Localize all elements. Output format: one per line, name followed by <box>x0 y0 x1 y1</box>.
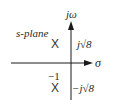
pole-upper-x-icon: X <box>51 38 59 50</box>
upper-pole-label: j√8 <box>77 39 92 50</box>
imaginary-axis-arrowhead-icon <box>68 21 74 30</box>
imaginary-axis-label: jω <box>66 9 77 20</box>
plane-label-text: s-plane <box>16 27 48 39</box>
lower-pole-label: −j√8 <box>72 83 94 94</box>
real-axis-arrowhead-icon <box>84 60 93 66</box>
s-plane-diagram: s-plane jω σ X j√8 −1 X −j√8 <box>0 0 115 112</box>
real-axis-label: σ <box>95 57 101 69</box>
pole-lower-x-icon: X <box>51 82 59 94</box>
plane-label: s-plane <box>16 28 48 39</box>
